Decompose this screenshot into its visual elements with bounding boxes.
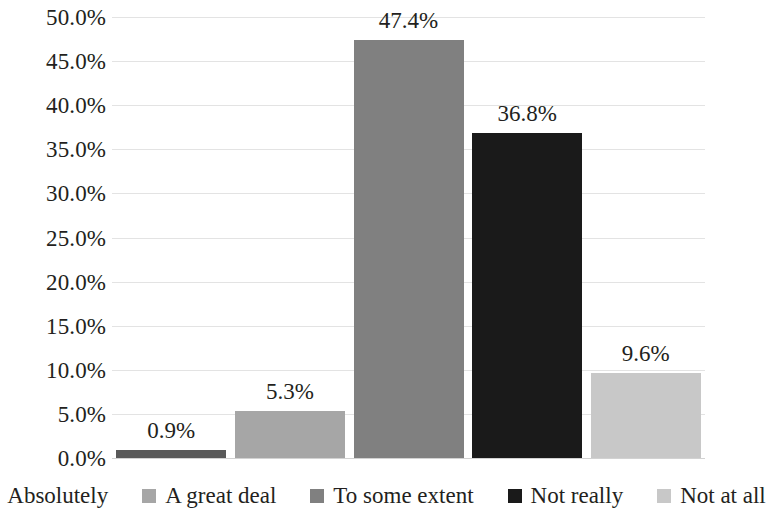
bar[interactable] bbox=[116, 450, 226, 458]
bar-value-label: 47.4% bbox=[379, 9, 438, 32]
y-axis-tick-label: 50.0% bbox=[0, 6, 106, 29]
y-axis-tick-label: 35.0% bbox=[0, 138, 106, 161]
bar-value-label: 0.9% bbox=[147, 419, 195, 442]
bar-value-label: 9.6% bbox=[622, 342, 670, 365]
bar[interactable] bbox=[354, 40, 464, 458]
y-axis-tick-label: 0.0% bbox=[0, 447, 106, 470]
bar-group: 47.4% bbox=[354, 17, 464, 458]
legend-swatch-icon bbox=[657, 489, 671, 503]
legend-label: To some extent bbox=[333, 484, 473, 507]
bar-value-label: 5.3% bbox=[266, 380, 314, 403]
chart-legend: AbsolutelyA great dealTo some extentNot … bbox=[0, 479, 750, 512]
y-axis: 50.0%45.0%40.0%35.0%30.0%25.0%20.0%15.0%… bbox=[0, 0, 106, 475]
legend-label: Not at all bbox=[680, 484, 766, 507]
bar[interactable] bbox=[235, 411, 345, 458]
legend-label: A great deal bbox=[165, 484, 276, 507]
bar-group: 36.8% bbox=[472, 17, 582, 458]
legend-item[interactable]: To some extent bbox=[310, 484, 473, 507]
y-axis-tick-label: 5.0% bbox=[0, 403, 106, 426]
y-axis-tick-label: 25.0% bbox=[0, 227, 106, 250]
y-axis-tick-label: 10.0% bbox=[0, 359, 106, 382]
bar[interactable] bbox=[591, 373, 701, 458]
bar-value-label: 36.8% bbox=[497, 102, 556, 125]
legend-swatch-icon bbox=[310, 489, 324, 503]
bar[interactable] bbox=[472, 133, 582, 458]
plot-area: 0.9%5.3%47.4%36.8%9.6% bbox=[112, 17, 705, 458]
legend-item[interactable]: A great deal bbox=[142, 484, 276, 507]
y-axis-tick-label: 45.0% bbox=[0, 50, 106, 73]
axis-baseline bbox=[112, 458, 705, 459]
legend-item[interactable]: Not at all bbox=[657, 484, 766, 507]
y-axis-tick-label: 20.0% bbox=[0, 271, 106, 294]
bar-group: 0.9% bbox=[116, 17, 226, 458]
legend-swatch-icon bbox=[508, 489, 522, 503]
legend-item[interactable]: Absolutely bbox=[0, 484, 108, 507]
legend-item[interactable]: Not really bbox=[508, 484, 624, 507]
y-axis-tick-label: 15.0% bbox=[0, 315, 106, 338]
y-axis-tick-label: 40.0% bbox=[0, 94, 106, 117]
legend-swatch-icon bbox=[142, 489, 156, 503]
legend-label: Not really bbox=[531, 484, 624, 507]
legend-label: Absolutely bbox=[7, 484, 108, 507]
y-axis-tick-label: 30.0% bbox=[0, 182, 106, 205]
bar-group: 5.3% bbox=[235, 17, 345, 458]
bar-group: 9.6% bbox=[591, 17, 701, 458]
bar-series: 0.9%5.3%47.4%36.8%9.6% bbox=[112, 17, 705, 458]
